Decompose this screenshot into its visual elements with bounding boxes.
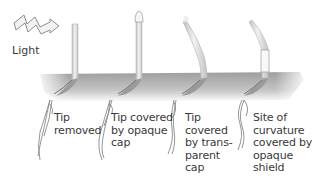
phototropism-diagram: Light Tip removed Tip covered by opaque … [0,0,317,183]
transparent-cap [183,16,189,22]
seedling-3-label: Tip covered by trans- parent cap [185,112,232,175]
seedling-1-label: Tip removed [54,112,101,137]
roots [38,100,53,160]
roots [238,100,248,150]
zigzag-arrow-icon [14,15,59,34]
opaque-shield [261,50,269,72]
light-label: Light [12,44,39,57]
seedling-4-label: Site of curvature covered by opaque shie… [253,112,312,175]
seedling-2-label: Tip covered by opaque cap [111,112,173,150]
opaque-cap [135,11,143,22]
